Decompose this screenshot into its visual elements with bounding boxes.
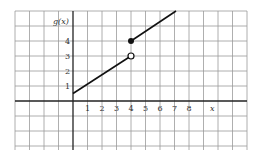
x-tick-5: 5 (143, 104, 148, 113)
open-circle-marker (128, 53, 134, 59)
filled-circle-marker (128, 38, 134, 44)
y-tick-1: 1 (65, 82, 70, 91)
grid (15, 11, 247, 150)
x-tick-labels: 1 2 3 4 5 6 7 8 (85, 104, 192, 113)
x-tick-1: 1 (85, 104, 90, 113)
x-tick-8: 8 (186, 104, 191, 113)
y-tick-labels: 1 2 3 4 (65, 37, 70, 91)
x-axis-label: x (210, 104, 215, 113)
y-tick-2: 2 (65, 67, 70, 76)
y-tick-4: 4 (65, 37, 70, 46)
y-tick-3: 3 (65, 52, 70, 61)
step-function-graph: g(x) x 1 2 3 4 5 6 7 8 1 2 3 4 (0, 0, 261, 155)
x-tick-4: 4 (128, 104, 133, 113)
segment-1-line (73, 58, 129, 94)
x-tick-7: 7 (172, 104, 177, 113)
x-tick-3: 3 (114, 104, 119, 113)
y-axis-label: g(x) (53, 17, 69, 26)
x-tick-6: 6 (157, 104, 162, 113)
x-tick-2: 2 (99, 104, 104, 113)
